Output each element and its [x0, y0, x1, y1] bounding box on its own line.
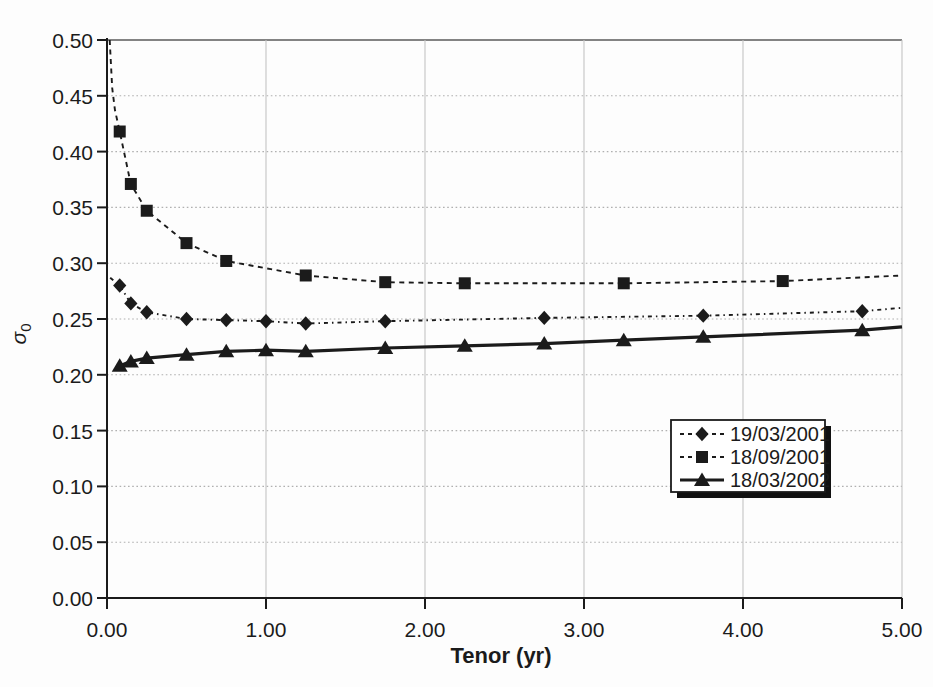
y-tick-label: 0.25 — [52, 308, 93, 331]
square-marker — [125, 178, 137, 190]
diamond-marker — [379, 314, 392, 328]
legend-label: 18/03/2002 — [730, 469, 830, 491]
volatility-chart: 0.001.002.003.004.005.000.000.050.100.15… — [0, 0, 933, 687]
series-triangle — [112, 323, 902, 372]
square-marker — [618, 277, 630, 289]
y-tick-label: 0.30 — [52, 252, 93, 275]
diamond-marker — [220, 313, 233, 327]
square-marker — [777, 275, 789, 287]
volatility-term-structure-figure: 0.001.002.003.004.005.000.000.050.100.15… — [0, 0, 933, 687]
y-tick-label: 0.15 — [52, 420, 93, 443]
y-tick-label: 0.20 — [52, 364, 93, 387]
diamond-marker — [124, 296, 137, 310]
square-marker — [220, 255, 232, 267]
data-series — [110, 40, 902, 372]
square-marker — [141, 205, 153, 217]
x-tick-label: 2.00 — [405, 618, 446, 641]
legend: 19/03/200118/09/200118/03/2002 — [671, 420, 831, 498]
x-tick-label: 4.00 — [723, 618, 764, 641]
diamond-marker — [113, 278, 126, 292]
square-marker — [459, 277, 471, 289]
y-tick-label: 0.45 — [52, 85, 93, 108]
y-tick-label: 0.50 — [52, 29, 93, 52]
y-tick-label: 0.10 — [52, 475, 93, 498]
y-axis-title-subscript: 0 — [17, 323, 34, 331]
series-line — [110, 40, 902, 283]
y-tick-label: 0.40 — [52, 141, 93, 164]
x-tick-label: 1.00 — [246, 618, 287, 641]
square-marker — [181, 237, 193, 249]
diamond-marker — [538, 311, 551, 325]
x-tick-label: 0.00 — [87, 618, 128, 641]
diamond-marker — [856, 304, 869, 318]
series-square — [110, 40, 902, 289]
legend-label: 19/03/2001 — [730, 423, 830, 445]
diamond-marker — [259, 314, 272, 328]
diamond-marker — [299, 316, 312, 330]
square-marker — [300, 269, 312, 281]
square-marker — [379, 276, 391, 288]
y-axis-title: σ0 — [7, 323, 34, 344]
square-marker — [114, 126, 126, 138]
y-tick-label: 0.35 — [52, 196, 93, 219]
diamond-marker — [140, 305, 153, 319]
axes: 0.001.002.003.004.005.000.000.050.100.15… — [52, 29, 922, 641]
x-tick-label: 3.00 — [564, 618, 605, 641]
x-tick-label: 5.00 — [882, 618, 923, 641]
legend-label: 18/09/2001 — [730, 446, 830, 468]
diamond-marker — [180, 312, 193, 326]
x-axis-title: Tenor (yr) — [450, 643, 551, 668]
square-marker — [696, 451, 708, 463]
y-tick-label: 0.05 — [52, 531, 93, 554]
series-line — [120, 327, 902, 366]
diamond-marker — [697, 308, 710, 322]
y-tick-label: 0.00 — [52, 587, 93, 610]
